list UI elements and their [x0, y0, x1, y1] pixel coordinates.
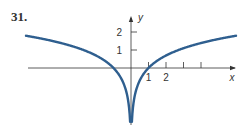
x-axis-arrow-icon [230, 66, 236, 70]
x-tick-label: 1 [146, 72, 152, 83]
curve-left [26, 36, 130, 122]
x-tick-label: 2 [163, 72, 169, 83]
y-tick-label: 2 [116, 27, 122, 38]
y-axis-arrow-icon [129, 16, 133, 22]
y-tick-label: 1 [116, 45, 122, 56]
log-abs-plot: 1212xy [0, 0, 251, 136]
x-axis-label: x [229, 72, 236, 83]
y-axis-label: y [137, 12, 144, 23]
